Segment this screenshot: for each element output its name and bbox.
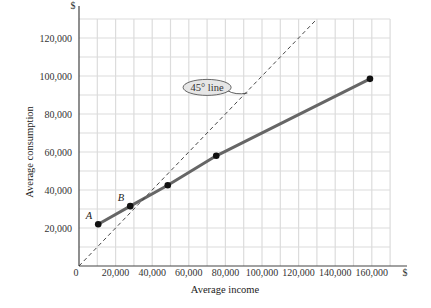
annotation-text: 45° line bbox=[191, 82, 224, 93]
y-tick-label: 80,000 bbox=[45, 109, 73, 120]
data-point bbox=[164, 182, 171, 189]
x-tick-label: 160,000 bbox=[356, 267, 389, 278]
y-tick-label: 20,000 bbox=[45, 223, 73, 234]
data-point bbox=[213, 153, 220, 160]
x-unit-label: $ bbox=[403, 267, 408, 278]
y-tick-label: 120,000 bbox=[40, 33, 73, 44]
data-point bbox=[95, 221, 102, 228]
x-tick-labels: 20,00040,00060,00080,000100,000120,00014… bbox=[102, 267, 388, 278]
point-label: A bbox=[85, 210, 93, 221]
x-tick-label: 20,000 bbox=[102, 267, 130, 278]
x-tick-label: 140,000 bbox=[319, 267, 352, 278]
origin-label: 0 bbox=[74, 267, 79, 278]
y-tick-label: 100,000 bbox=[40, 71, 73, 82]
y-tick-label: 60,000 bbox=[45, 147, 73, 158]
y-tick-labels: 20,00040,00060,00080,000100,000120,000 bbox=[40, 33, 73, 234]
x-tick-label: 40,000 bbox=[138, 267, 166, 278]
series: AB bbox=[79, 19, 373, 266]
y-axis-title: Average consumption bbox=[24, 105, 35, 197]
x-tick-label: 100,000 bbox=[246, 267, 279, 278]
annotation-leader bbox=[227, 90, 247, 93]
x-tick-label: 60,000 bbox=[175, 267, 203, 278]
data-point bbox=[127, 203, 134, 210]
grid bbox=[79, 19, 390, 266]
chart: 20,00040,00060,00080,000100,000120,00014… bbox=[0, 0, 431, 308]
point-label: B bbox=[118, 192, 125, 203]
forty-five-degree-line bbox=[79, 19, 317, 266]
y-tick-label: 40,000 bbox=[45, 185, 73, 196]
x-tick-label: 80,000 bbox=[212, 267, 240, 278]
x-axis-title: Average income bbox=[191, 284, 260, 295]
axes bbox=[79, 6, 407, 266]
data-point bbox=[367, 76, 374, 83]
x-tick-label: 120,000 bbox=[282, 267, 315, 278]
y-unit-label: $ bbox=[71, 0, 76, 11]
annotation-45-line: 45° line bbox=[183, 79, 247, 95]
